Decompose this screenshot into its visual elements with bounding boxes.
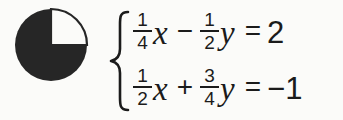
fraction-denominator: 2 <box>136 89 149 108</box>
fraction-numerator: 1 <box>136 10 149 29</box>
operator-plus: + <box>177 73 193 101</box>
left-curly-brace <box>108 9 132 113</box>
fraction-one-quarter: 1 4 <box>133 10 152 52</box>
constant-term: 2 <box>267 17 284 48</box>
worksheet-problem: 1 4 x − 1 2 y = 2 1 <box>0 0 343 120</box>
fraction-denominator: 4 <box>136 33 149 52</box>
variable-y: y <box>220 17 235 50</box>
fraction-numerator: 3 <box>203 66 216 85</box>
equation-row: 1 4 x − 1 2 y = 2 <box>133 11 343 53</box>
variable-x: x <box>153 17 168 50</box>
fraction-numerator: 1 <box>136 66 149 85</box>
relation-equals: = <box>245 73 261 101</box>
variable-y: y <box>220 73 235 106</box>
fraction-one-half: 1 2 <box>133 66 152 108</box>
variable-x: x <box>153 73 168 106</box>
relation-equals: = <box>245 17 261 45</box>
fraction-numerator: 1 <box>203 10 216 29</box>
fraction-three-quarters: 3 4 <box>200 66 219 108</box>
operator-minus: − <box>177 17 193 45</box>
equations-list: 1 4 x − 1 2 y = 2 1 <box>133 11 343 109</box>
equation-system: 1 4 x − 1 2 y = 2 1 <box>108 0 343 120</box>
constant-term: −1 <box>267 73 302 104</box>
fraction-denominator: 2 <box>203 33 216 52</box>
fraction-one-half: 1 2 <box>200 10 219 52</box>
fraction-denominator: 4 <box>203 89 216 108</box>
pie-quarter-icon <box>13 7 89 83</box>
equation-row: 1 2 x + 3 4 y = −1 <box>133 67 343 109</box>
